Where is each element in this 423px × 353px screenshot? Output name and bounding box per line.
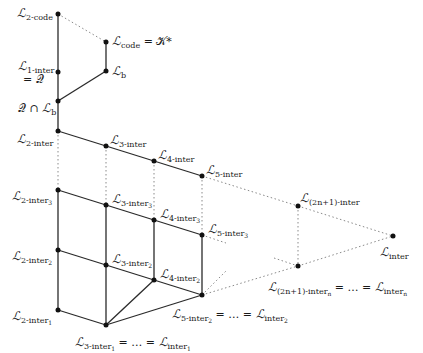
node-2n1-intern <box>296 264 301 269</box>
script-l: ℒ <box>256 307 265 321</box>
script-l: ℒ <box>18 59 27 73</box>
node-2-inter2 <box>56 248 61 253</box>
label-inter: ℒinter <box>380 246 408 263</box>
script-l: ℒ <box>112 64 121 78</box>
label-4-inter2: ℒ4-inter2 <box>160 268 200 287</box>
subscript: 4-inter <box>167 155 194 164</box>
node-5-inter2 <box>200 293 205 298</box>
subscript: 3-inter <box>84 342 111 351</box>
node-4-inter2 <box>152 278 157 283</box>
node-code <box>104 40 109 45</box>
sub-subscript: 3 <box>148 202 152 209</box>
script-l: ℒ <box>112 252 121 266</box>
node-2-inter1 <box>56 308 61 313</box>
script-l: ℒ <box>172 307 181 321</box>
script-l: ℒ <box>158 148 167 162</box>
subscript: 3-inter <box>121 259 148 268</box>
subscript: 2-inter <box>26 139 53 148</box>
subscript: code <box>121 41 140 50</box>
node-4-inter3 <box>152 218 157 223</box>
subscript: b <box>121 71 126 80</box>
subscript: (2n+1)-inter <box>277 287 327 296</box>
subscript: 5-inter <box>215 170 242 179</box>
equality: = 𝒦* <box>140 35 172 48</box>
script-l: ℒ <box>206 163 215 177</box>
script-l: ℒ <box>12 249 21 263</box>
script-l: ℒ <box>268 280 277 294</box>
subscript: inter <box>384 287 403 296</box>
subscript: inter <box>168 342 187 351</box>
node-2-inter <box>56 129 61 134</box>
label-2-inter2: ℒ2-inter2 <box>12 250 52 269</box>
node-2-code <box>56 12 61 17</box>
label-4-inter3: ℒ4-inter3 <box>160 208 200 227</box>
script-l: ℒ <box>110 133 119 147</box>
subscript: inter <box>389 252 408 261</box>
node-2-inter3 <box>56 188 61 193</box>
subscript: inter <box>265 314 284 323</box>
node-inter <box>391 234 396 239</box>
sub-subscript: n <box>403 290 407 297</box>
subscript: 5-inter <box>181 314 208 323</box>
subscript: 5-inter <box>217 229 244 238</box>
q-intersect: 𝒬 ∩ <box>18 102 42 115</box>
subscript: 2-code <box>26 13 53 22</box>
node-3-inter3 <box>104 203 109 208</box>
label-2-inter1: ℒ2-inter1 <box>12 310 52 329</box>
label-3-inter: ℒ3-inter <box>110 134 146 151</box>
sub-subscript: 2 <box>196 277 200 284</box>
script-l: ℒ <box>112 192 121 206</box>
subscript: 2-inter <box>21 256 48 265</box>
label-2n1-inter: ℒ(2n+1)-inter <box>300 192 359 209</box>
node-b <box>104 69 109 74</box>
subscript: b <box>51 108 56 117</box>
node-1-inter <box>56 70 61 75</box>
label-1-inter-eq: = 𝒬 <box>23 74 44 86</box>
sub-subscript: 2 <box>284 317 288 324</box>
label-5-inter3: ℒ5-inter3 <box>208 223 248 242</box>
subscript: (2n+1)-inter <box>309 198 359 207</box>
script-l: ℒ <box>375 280 384 294</box>
label-3-inter1: ℒ3-inter1 = … = ℒinter1 <box>75 336 191 353</box>
subscript: 2-inter <box>21 316 48 325</box>
sub-subscript: 2 <box>148 262 152 269</box>
label-2-code: ℒ2-code <box>17 7 53 24</box>
script-l: ℒ <box>160 267 169 281</box>
script-l: ℒ <box>300 191 309 205</box>
script-l: ℒ <box>380 245 389 259</box>
label-b: ℒb <box>112 65 126 82</box>
subscript: 4-inter <box>169 274 196 283</box>
script-l: ℒ <box>159 335 168 349</box>
equality: = … = <box>115 336 158 349</box>
label-3-inter2: ℒ3-inter2 <box>112 253 152 272</box>
sub-subscript: 3 <box>48 199 52 206</box>
dotted-edges <box>58 14 393 295</box>
script-l: ℒ <box>208 222 217 236</box>
equality: = … = <box>212 308 255 321</box>
label-2-inter3: ℒ2-inter3 <box>12 190 52 209</box>
sub-subscript: 2 <box>48 259 52 266</box>
script-l: ℒ <box>17 132 26 146</box>
sub-subscript: 3 <box>196 217 200 224</box>
node-3-inter1 <box>104 323 109 328</box>
subscript: 4-inter <box>169 214 196 223</box>
equality: = … = <box>331 281 374 294</box>
script-l: ℒ <box>12 189 21 203</box>
script-l: ℒ <box>17 6 26 20</box>
script-l: ℒ <box>12 309 21 323</box>
node-3-inter <box>104 144 109 149</box>
script-l: ℒ <box>75 335 84 349</box>
node-3-inter2 <box>104 263 109 268</box>
label-q-cap-lb: 𝒬 ∩ ℒb <box>18 102 56 119</box>
script-l: ℒ <box>112 34 121 48</box>
sub-subscript: 1 <box>187 345 191 352</box>
subscript: 3-inter <box>121 199 148 208</box>
sub-subscript: 3 <box>244 232 248 239</box>
label-3-inter3: ℒ3-inter3 <box>112 193 152 212</box>
label-5-inter: ℒ5-inter <box>206 164 242 181</box>
sub-subscript: 1 <box>48 319 52 326</box>
label-code: ℒcode = 𝒦* <box>112 35 172 52</box>
node-5-inter <box>200 174 205 179</box>
subscript: 2-inter <box>21 196 48 205</box>
label-2n1-intern: ℒ(2n+1)-intern = … = ℒintern <box>268 281 407 300</box>
